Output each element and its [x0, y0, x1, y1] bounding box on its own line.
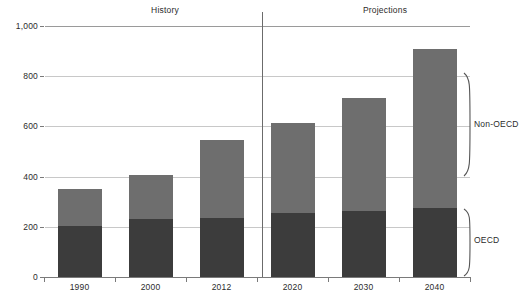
gridline-600 — [44, 126, 470, 127]
y-tick-label-600: 600 — [0, 122, 38, 131]
y-tick-label-1000: 1,000 — [0, 22, 38, 31]
bar-segment-non-oecd-2030 — [342, 98, 386, 211]
section-title-history: History — [110, 6, 220, 15]
x-tick-label-2012: 2012 — [186, 283, 257, 292]
non-oecd-brace-icon — [463, 72, 472, 177]
x-tick-mark-1 — [115, 277, 116, 282]
x-tick-mark-4 — [328, 277, 329, 282]
bar-segment-oecd-2012 — [200, 218, 244, 277]
x-tick-label-1990: 1990 — [44, 283, 115, 292]
x-tick-label-2000: 2000 — [115, 283, 186, 292]
bar-group-2012 — [200, 140, 244, 277]
x-tick-mark-end — [470, 277, 471, 282]
y-tick-label-400: 400 — [0, 173, 38, 182]
bar-segment-oecd-2040 — [413, 208, 457, 277]
bar-segment-non-oecd-2000 — [129, 175, 173, 219]
bar-segment-non-oecd-2012 — [200, 140, 244, 218]
x-tick-mark-2 — [186, 277, 187, 282]
gridline-200 — [44, 227, 470, 228]
x-tick-label-2020: 2020 — [257, 283, 328, 292]
gridline-1000 — [44, 26, 470, 27]
bar-segment-non-oecd-1990 — [58, 189, 102, 226]
bar-segment-non-oecd-2040 — [413, 49, 457, 208]
stacked-bar-chart: History Projections 1,0008006004002000 1… — [0, 0, 524, 301]
x-tick-label-2030: 2030 — [328, 283, 399, 292]
bar-group-2020 — [271, 123, 315, 277]
legend-label-oecd-text: OECD — [474, 235, 499, 245]
plot-area — [44, 26, 470, 277]
x-tick-mark-start — [44, 277, 45, 282]
section-title-projections-label: Projections — [363, 5, 407, 15]
x-tick-label-2040: 2040 — [399, 283, 470, 292]
bar-segment-oecd-2000 — [129, 219, 173, 277]
bar-segment-non-oecd-2020 — [271, 123, 315, 213]
legend-label-oecd: OECD — [474, 236, 499, 245]
legend-label-non-oecd: Non-OECD — [474, 120, 519, 129]
oecd-brace-icon — [463, 208, 472, 277]
gridline-800 — [44, 76, 470, 77]
bar-group-2030 — [342, 98, 386, 277]
bar-segment-oecd-1990 — [58, 226, 102, 277]
x-tick-mark-5 — [399, 277, 400, 282]
history-projections-divider — [262, 12, 263, 277]
y-axis-line — [44, 26, 45, 277]
x-tick-mark-3 — [257, 277, 258, 282]
gridline-400 — [44, 177, 470, 178]
y-tick-label-0: 0 — [0, 273, 38, 282]
bar-segment-oecd-2020 — [271, 213, 315, 277]
section-title-projections: Projections — [330, 6, 440, 15]
bar-group-2040 — [413, 49, 457, 277]
bar-group-1990 — [58, 189, 102, 277]
legend-label-non-oecd-text: Non-OECD — [474, 119, 519, 129]
bar-group-2000 — [129, 175, 173, 277]
section-title-history-label: History — [151, 5, 179, 15]
y-tick-label-800: 800 — [0, 72, 38, 81]
y-tick-label-200: 200 — [0, 223, 38, 232]
bar-segment-oecd-2030 — [342, 211, 386, 278]
